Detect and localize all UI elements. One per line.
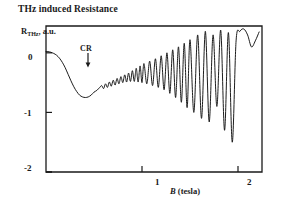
axis-ticks [46, 53, 238, 172]
cr-arrow [86, 53, 91, 68]
plot-canvas [0, 0, 287, 208]
data-series-thz-resistance [46, 29, 259, 142]
figure-thz-induced-resistance: THz induced Resistance RTHz, a.u. B (tes… [0, 0, 287, 208]
